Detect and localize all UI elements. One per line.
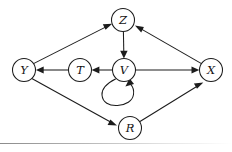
node-z-label: Z bbox=[118, 13, 128, 27]
edge-v-to-x-arrowhead bbox=[192, 66, 200, 73]
node-r[interactable]: R bbox=[119, 117, 142, 140]
edge-r-to-x-line bbox=[140, 86, 198, 122]
edge-z-to-v bbox=[120, 32, 127, 59]
edge-x-to-z-arrowhead bbox=[135, 25, 144, 32]
directed-graph: Z Y T V X R bbox=[0, 0, 232, 152]
edge-y-to-r bbox=[32, 79, 117, 126]
edge-v-to-x bbox=[136, 66, 200, 73]
edge-t-to-y bbox=[36, 66, 69, 73]
node-t-label: T bbox=[76, 63, 85, 77]
edge-y-to-r-arrowhead bbox=[108, 120, 117, 126]
edge-x-to-z-line bbox=[141, 29, 202, 64]
edge-z-to-v-arrowhead bbox=[120, 51, 127, 59]
edge-y-to-z-arrowhead bbox=[103, 24, 112, 30]
bottom-divider bbox=[0, 143, 232, 144]
node-r-label: R bbox=[125, 121, 135, 135]
node-x-label: X bbox=[206, 63, 216, 77]
edge-y-to-r-line bbox=[32, 79, 111, 123]
edge-t-to-y-arrowhead bbox=[36, 66, 44, 73]
edge-v-self-loop bbox=[102, 78, 134, 105]
edge-y-to-z bbox=[34, 24, 113, 64]
node-t[interactable]: T bbox=[69, 59, 92, 82]
edge-v-to-t bbox=[92, 66, 113, 73]
node-y[interactable]: Y bbox=[13, 59, 36, 82]
figure-canvas: Z Y T V X R bbox=[0, 0, 232, 152]
node-v[interactable]: V bbox=[113, 59, 136, 82]
edge-v-to-t-arrowhead bbox=[92, 66, 100, 73]
node-z[interactable]: Z bbox=[112, 9, 135, 32]
node-x[interactable]: X bbox=[200, 59, 223, 82]
edge-x-to-z bbox=[135, 25, 202, 63]
node-group: Z Y T V X R bbox=[13, 9, 223, 140]
edge-y-to-z-line bbox=[34, 27, 107, 64]
edge-r-to-x bbox=[140, 83, 203, 122]
